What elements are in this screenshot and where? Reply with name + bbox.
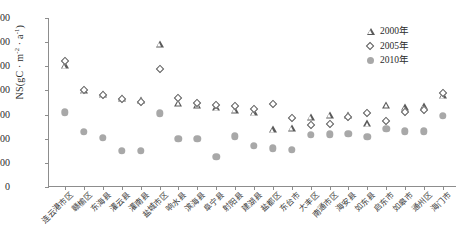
legend-item[interactable]: 2000年: [362, 24, 409, 39]
diamond-marker-icon: [231, 102, 240, 111]
data-point-diamond: [402, 109, 408, 115]
diamond-marker-icon: [212, 101, 221, 110]
data-point-diamond: [270, 101, 276, 107]
data-point-circle: [364, 133, 371, 140]
scatter-chart: NS(gC · m-2 · a-1) 010020030040050060070…: [0, 0, 462, 249]
data-point-circle: [326, 131, 333, 138]
circle-marker-icon: [231, 133, 238, 140]
y-tick-mark: [45, 139, 49, 140]
triangle-marker-icon: [269, 126, 277, 133]
data-point-circle: [307, 131, 314, 138]
y-axis-title-prefix: NS(gC · m: [14, 54, 25, 100]
data-point-triangle: [269, 126, 277, 133]
diamond-marker-icon: [193, 98, 202, 107]
y-tick-mark: [45, 163, 49, 164]
diamond-marker-icon: [344, 113, 353, 122]
diamond-marker-icon: [117, 95, 126, 104]
diamond-marker-icon: [325, 120, 334, 129]
data-point-diamond: [194, 99, 200, 105]
diamond-marker-icon: [99, 90, 108, 99]
y-tick-label: 700: [0, 13, 10, 23]
y-tick-label: 300: [0, 110, 10, 120]
legend-item-label: 2010年: [379, 53, 409, 68]
circle-marker-icon: [212, 153, 219, 160]
y-axis-title-suffix: ): [14, 25, 25, 29]
data-point-diamond: [289, 115, 295, 121]
diamond-marker-icon: [439, 89, 448, 98]
circle-marker-icon: [156, 110, 163, 117]
data-point-circle: [212, 153, 219, 160]
data-point-diamond: [308, 122, 314, 128]
diamond-marker-icon: [363, 109, 372, 118]
y-axis-title-exp1: -2: [13, 48, 20, 54]
circle-marker-icon: [194, 135, 201, 142]
diamond-marker-icon: [155, 64, 164, 73]
y-tick-mark: [45, 42, 49, 43]
data-point-circle: [269, 145, 276, 152]
data-point-diamond: [364, 110, 370, 116]
data-point-triangle: [363, 120, 371, 127]
y-tick-label: 500: [0, 61, 10, 71]
y-axis-title-mid: · a: [14, 34, 25, 48]
circle-marker-icon: [364, 133, 371, 140]
diamond-marker-icon: [362, 43, 379, 49]
data-point-diamond: [156, 66, 162, 72]
circle-marker-icon: [118, 147, 125, 154]
y-tick-mark: [45, 115, 49, 116]
y-tick-mark: [45, 90, 49, 91]
circle-marker-icon: [80, 128, 87, 135]
circle-marker-icon: [382, 125, 389, 132]
circle-marker-icon: [345, 130, 352, 137]
data-point-circle: [231, 133, 238, 140]
data-point-diamond: [326, 121, 332, 127]
triangle-marker-icon: [326, 111, 334, 118]
diamond-marker-icon: [382, 116, 391, 125]
circle-marker-icon: [250, 142, 257, 149]
data-point-circle: [118, 147, 125, 154]
circle-marker-icon: [61, 108, 68, 115]
y-tick-mark: [45, 66, 49, 67]
circle-marker-icon: [362, 57, 379, 64]
legend-item-label: 2000年: [379, 24, 409, 39]
data-point-triangle: [326, 111, 334, 118]
data-point-diamond: [100, 92, 106, 98]
data-point-circle: [61, 108, 68, 115]
y-tick-label: 200: [0, 134, 10, 144]
legend-item[interactable]: 2005年: [362, 39, 409, 54]
data-point-triangle: [288, 124, 296, 131]
data-point-circle: [382, 125, 389, 132]
y-tick-label: 600: [0, 37, 10, 47]
legend-item-label: 2005年: [379, 39, 409, 54]
y-axis-title: NS(gC · m-2 · a-1): [13, 0, 25, 137]
triangle-marker-icon: [362, 28, 379, 35]
data-point-circle: [80, 128, 87, 135]
data-point-circle: [288, 146, 295, 153]
data-point-circle: [194, 135, 201, 142]
y-tick-mark: [45, 187, 49, 188]
data-point-diamond: [383, 118, 389, 124]
legend-item[interactable]: 2010年: [362, 53, 409, 68]
triangle-marker-icon: [156, 40, 164, 47]
diamond-marker-icon: [420, 106, 429, 115]
data-point-diamond: [62, 58, 68, 64]
data-point-diamond: [81, 87, 87, 93]
circle-marker-icon: [288, 146, 295, 153]
circle-marker-icon: [420, 128, 427, 135]
circle-marker-icon: [137, 147, 144, 154]
circle-marker-icon: [326, 131, 333, 138]
data-point-triangle: [156, 40, 164, 47]
diamond-marker-icon: [401, 108, 410, 117]
circle-marker-icon: [439, 112, 446, 119]
diamond-marker-icon: [287, 114, 296, 123]
y-tick-label: 400: [0, 85, 10, 95]
diamond-marker-icon: [269, 99, 278, 108]
circle-marker-icon: [269, 145, 276, 152]
data-point-diamond: [421, 107, 427, 113]
circle-marker-icon-glyph: [367, 57, 374, 64]
diamond-marker-icon: [174, 94, 183, 103]
data-point-diamond: [440, 90, 446, 96]
circle-marker-icon: [175, 135, 182, 142]
data-point-circle: [156, 110, 163, 117]
triangle-marker-icon: [288, 124, 296, 131]
diamond-marker-icon: [61, 57, 70, 66]
